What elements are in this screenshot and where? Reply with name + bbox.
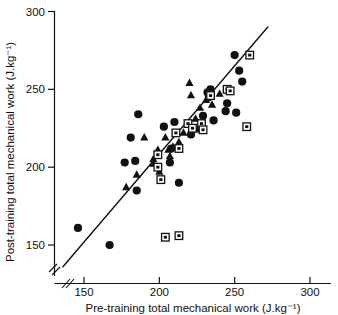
marker-triangle <box>140 133 148 140</box>
marker-circle <box>222 107 230 115</box>
marker-square-center <box>200 122 203 125</box>
marker-square-center <box>164 236 167 239</box>
marker-triangle <box>185 79 193 86</box>
marker-circle <box>74 224 82 232</box>
marker-square-center <box>191 127 194 130</box>
y-axis-tick-labels: 150200250300 <box>26 6 45 252</box>
marker-square-center <box>156 166 159 169</box>
marker-triangle <box>187 91 195 98</box>
marker-square-center <box>159 178 162 181</box>
marker-circle <box>133 186 141 194</box>
marker-square-center <box>209 94 212 97</box>
y-tick-label: 250 <box>26 83 45 95</box>
x-tick-label: 300 <box>300 286 319 298</box>
marker-circle <box>127 133 135 141</box>
y-tick-label: 300 <box>26 6 45 18</box>
x-tick-label: 150 <box>74 286 93 298</box>
data-markers-group <box>74 51 254 249</box>
marker-square-center <box>177 234 180 237</box>
marker-circle <box>106 241 114 249</box>
x-axis-title: Pre-training total mechanical work (J.kg… <box>86 302 301 314</box>
marker-square-center <box>177 147 180 150</box>
identity-line <box>63 27 268 267</box>
marker-circle <box>166 158 174 166</box>
marker-circle <box>209 116 217 124</box>
marker-triangle <box>216 89 224 96</box>
x-tick-label: 250 <box>225 286 244 298</box>
marker-square-center <box>201 128 204 131</box>
y-axis-title: Post-training total mechanical work (J.k… <box>4 42 16 262</box>
y-tick-label: 150 <box>26 239 45 251</box>
marker-square-center <box>245 125 248 128</box>
marker-circle <box>134 110 142 118</box>
x-axis-tick-labels: 150200250300 <box>74 286 319 298</box>
y-axis-group: 150200250300 <box>26 6 60 277</box>
marker-circle <box>199 112 207 120</box>
marker-triangle <box>133 170 141 177</box>
marker-triangle <box>175 138 183 145</box>
marker-square-center <box>229 89 232 92</box>
marker-circle <box>232 109 240 117</box>
marker-triangle <box>122 183 130 190</box>
marker-circle <box>231 51 239 59</box>
marker-circle <box>175 179 183 187</box>
y-axis-ticks <box>48 12 55 246</box>
y-tick-label: 200 <box>26 161 45 173</box>
plot-canvas: 150200250300 150200250300 Post-training … <box>0 0 338 315</box>
marker-circle <box>238 77 246 85</box>
marker-circle <box>121 158 129 166</box>
marker-circle <box>170 118 178 126</box>
x-axis-ticks <box>84 277 310 284</box>
marker-triangle <box>196 103 204 110</box>
marker-circle <box>131 157 139 165</box>
marker-square-center <box>248 54 251 57</box>
marker-circle <box>223 99 231 107</box>
scatter-plot-figure: 150200250300 150200250300 Post-training … <box>0 0 338 315</box>
marker-circle <box>235 67 243 75</box>
marker-square-center <box>156 153 159 156</box>
marker-triangle <box>161 133 169 140</box>
x-axis-group: 150200250300 <box>55 277 332 298</box>
marker-circle <box>160 123 168 131</box>
marker-square-center <box>174 132 177 135</box>
x-tick-label: 200 <box>150 286 169 298</box>
